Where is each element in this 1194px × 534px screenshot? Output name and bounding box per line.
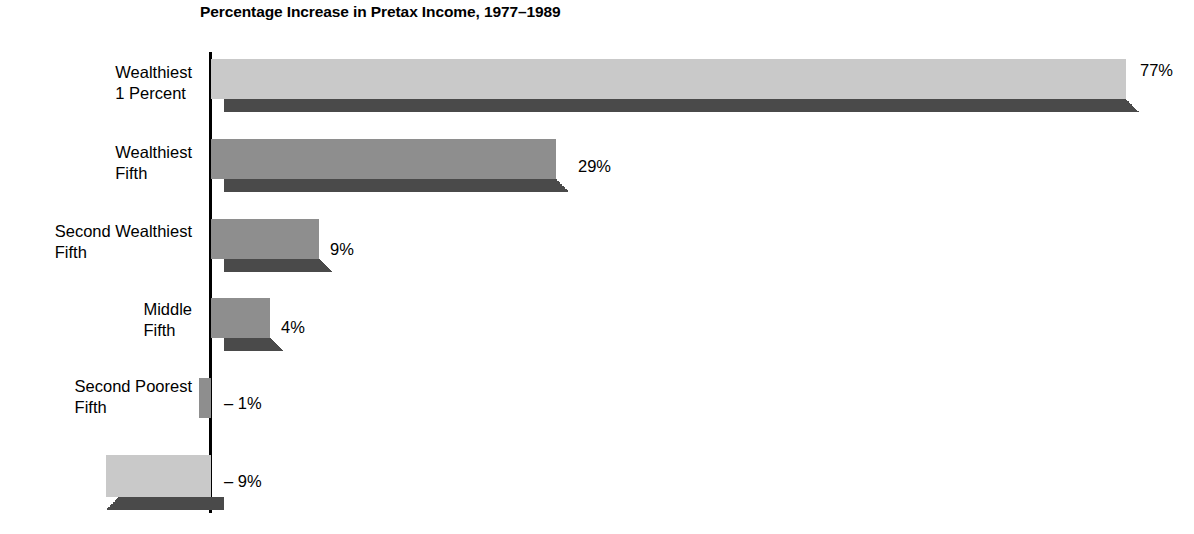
category-label-line1: Middle	[143, 299, 192, 320]
bar-shadow-bevel	[319, 259, 332, 272]
category-label-line1: Wealthiest	[115, 142, 192, 163]
category-label-second-poorest-fifth: Second Poorest Fifth	[75, 376, 192, 418]
category-label-middle-fifth: Middle Fifth	[143, 299, 192, 341]
bar-second-wealthiest-fifth	[211, 219, 319, 259]
category-label-line2: Fifth	[75, 397, 192, 418]
category-label-line1: Second Wealthiest	[55, 221, 192, 242]
bar-face	[211, 298, 270, 338]
category-label-wealthiest-fifth: Wealthiest Fifth	[115, 142, 192, 184]
category-label-line2: Fifth	[55, 242, 192, 263]
plot-area: Wealthiest 1 Percent Wealthiest Fifth Se…	[0, 0, 1194, 534]
category-label-line2: Fifth	[143, 320, 192, 341]
bar-shadow	[119, 497, 224, 510]
bar-shadow	[224, 338, 270, 351]
value-label-poorest-fifth: – 9%	[224, 472, 262, 490]
bar-face	[106, 455, 211, 497]
bar-middle-fifth	[211, 298, 270, 338]
bar-shadow-bevel	[270, 338, 283, 351]
bar-wealthiest-fifth	[211, 139, 556, 179]
bar-shadow	[224, 179, 556, 192]
value-label-second-poorest-fifth: – 1%	[224, 394, 262, 412]
category-label-wealthiest-1-percent: Wealthiest 1 Percent	[115, 62, 192, 104]
value-label-middle-fifth: 4%	[281, 318, 305, 336]
category-label-line2: Fifth	[115, 163, 192, 184]
category-label-line2: 1 Percent	[115, 83, 192, 104]
bar-face	[211, 59, 1126, 99]
category-label-line1: Wealthiest	[115, 62, 192, 83]
bar-shadow-bevel	[106, 497, 119, 510]
zero-axis-line	[209, 52, 212, 513]
value-label-wealthiest-1-percent: 77%	[1140, 61, 1173, 79]
bar-shadow-bevel	[1126, 99, 1139, 112]
bar-wealthiest-1-percent	[211, 59, 1126, 99]
bar-face	[199, 378, 211, 418]
bar-face	[211, 219, 319, 259]
bar-shadow-bevel	[556, 179, 569, 192]
bar-face	[211, 139, 556, 179]
bar-shadow	[224, 99, 1126, 112]
bar-second-poorest-fifth	[199, 378, 211, 418]
bar-shadow	[224, 259, 319, 272]
value-label-second-wealthiest-fifth: 9%	[330, 240, 354, 258]
category-label-line1: Second Poorest	[75, 376, 192, 397]
bar-poorest-fifth	[106, 455, 211, 497]
chart-container: Percentage Increase in Pretax Income, 19…	[0, 0, 1194, 534]
value-label-wealthiest-fifth: 29%	[578, 157, 611, 175]
category-label-second-wealthiest-fifth: Second Wealthiest Fifth	[55, 221, 192, 263]
